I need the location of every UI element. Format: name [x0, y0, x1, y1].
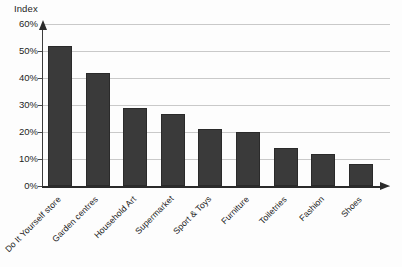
gridline: [42, 24, 390, 25]
y-axis-line: [42, 28, 43, 187]
x-axis-arrow-icon: [380, 182, 390, 190]
bar: [311, 154, 335, 186]
bar: [198, 129, 222, 186]
bar: [161, 114, 185, 186]
y-axis-tick: 40%: [0, 72, 38, 84]
y-axis-tick-label: 30%: [2, 99, 38, 110]
bar: [48, 46, 72, 186]
bar: [86, 73, 110, 186]
y-axis-tick-label: 50%: [2, 45, 38, 56]
chart-screenshot: Index 0%10%20%30%40%50%60% Do It Yoursel…: [0, 0, 402, 267]
x-axis-tick-label: Fashion: [297, 194, 326, 223]
y-axis-tick-label: 0%: [2, 180, 38, 191]
y-axis-tick-label: 40%: [2, 72, 38, 83]
x-axis-tick-label: Sport & Toys: [171, 194, 213, 236]
x-axis-tick-label: Supermarket: [133, 194, 176, 237]
bar: [349, 164, 373, 186]
y-axis-title: Index: [14, 3, 38, 14]
x-axis-tick-label: Furniture: [219, 194, 251, 226]
y-axis-tick-label: 20%: [2, 126, 38, 137]
bar: [123, 108, 147, 186]
y-axis-tick: 30%: [0, 99, 38, 111]
y-axis-tick-label: 60%: [2, 18, 38, 29]
bar: [274, 148, 298, 186]
x-axis-tick-label: Shoes: [339, 194, 364, 219]
bar-chart: Index 0%10%20%30%40%50%60% Do It Yoursel…: [0, 0, 402, 267]
bar: [236, 132, 260, 186]
x-axis-tick-label: Toiletries: [257, 194, 289, 226]
y-axis-tick: 10%: [0, 153, 38, 165]
y-axis-arrow-icon: [39, 20, 47, 30]
y-axis-tick: 20%: [0, 126, 38, 138]
x-axis-line: [42, 186, 382, 188]
y-axis-tick: 50%: [0, 45, 38, 57]
x-axis-tick-label: Do It Yourself store: [3, 194, 63, 254]
y-axis-tick: 60%: [0, 18, 38, 30]
gridline: [42, 51, 390, 52]
y-axis-tick: 0%: [0, 180, 38, 192]
y-axis-tick-label: 10%: [2, 153, 38, 164]
